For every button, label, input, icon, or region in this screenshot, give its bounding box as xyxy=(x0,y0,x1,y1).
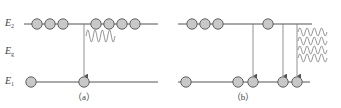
caption-b: （b） xyxy=(232,93,255,102)
electron-upper xyxy=(45,19,55,29)
photon-wave xyxy=(298,46,327,54)
electron-upper xyxy=(91,19,101,29)
photon-wave xyxy=(298,28,327,36)
photon-wave xyxy=(298,37,327,45)
electron-lower xyxy=(79,77,89,87)
electron-upper xyxy=(200,19,210,29)
label-e2: E2 xyxy=(5,18,14,29)
electron-upper xyxy=(58,19,68,29)
photon-wave xyxy=(298,54,327,62)
diagram-canvas xyxy=(0,0,341,108)
electron-upper xyxy=(130,19,140,29)
caption-a: （a） xyxy=(73,93,95,102)
electron-upper xyxy=(187,19,197,29)
panel-a-spontaneous-emission xyxy=(24,19,158,87)
photon-wave xyxy=(86,30,115,42)
label-eg: Eg xyxy=(5,46,14,57)
electron-lower xyxy=(233,77,243,87)
label-e1: E1 xyxy=(5,76,14,87)
electron-lower xyxy=(181,77,191,87)
electron-lower xyxy=(278,77,288,87)
panel-b-stimulated-emission xyxy=(178,19,327,87)
electron-upper xyxy=(32,19,42,29)
electron-lower xyxy=(248,77,258,87)
electron-upper xyxy=(213,19,223,29)
electron-upper xyxy=(263,19,273,29)
energy-level-diagram: E2 Eg E1 （a） （b） xyxy=(0,0,341,108)
electron-lower xyxy=(26,77,36,87)
electron-upper xyxy=(117,19,127,29)
electron-upper xyxy=(104,19,114,29)
electron-lower xyxy=(292,77,302,87)
